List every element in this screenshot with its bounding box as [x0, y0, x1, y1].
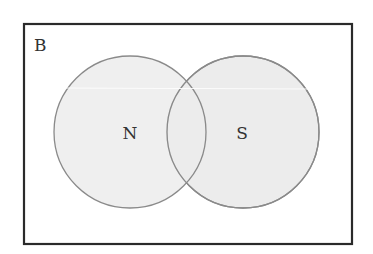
- set-s-label: S: [236, 123, 248, 143]
- set-n-label: N: [123, 123, 138, 143]
- universe-label: B: [34, 35, 47, 55]
- venn-diagram: B N S: [0, 0, 373, 254]
